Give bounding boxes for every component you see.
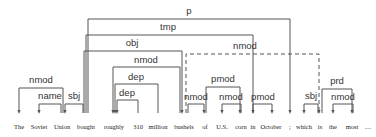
arc-label: pmod <box>251 91 275 102</box>
word-token: the <box>329 123 337 130</box>
arc-label: nmod <box>29 74 53 85</box>
arc-label: dep <box>128 71 144 82</box>
word-token: … <box>365 123 372 130</box>
word-token: of <box>202 123 208 130</box>
arc-line <box>39 104 61 113</box>
word-token: most <box>346 123 359 130</box>
arc-line <box>117 100 138 113</box>
arc-label: nmod <box>219 91 243 102</box>
dependency-arc-nmod <box>331 104 353 114</box>
arc-label: nmod <box>233 40 257 51</box>
dependency-arc-dep <box>115 100 138 114</box>
word-token: The <box>14 123 24 130</box>
arc-label: nmod <box>134 54 158 65</box>
word-token: bushels <box>174 123 194 130</box>
dependency-arc-nmod <box>188 104 206 114</box>
word-token: which <box>296 123 313 130</box>
arrowhead-icon <box>115 110 118 114</box>
arc-line <box>222 104 241 113</box>
arrowhead-icon <box>202 110 205 114</box>
word-token: U.S. <box>216 123 228 130</box>
arrowhead-icon <box>37 110 40 114</box>
arrowhead-icon <box>17 110 20 114</box>
word-token: is <box>318 123 323 130</box>
word-token: bought <box>77 123 95 130</box>
arc-line <box>84 51 182 113</box>
dependency-arc-name <box>37 104 61 114</box>
arc-label: prd <box>330 75 344 86</box>
arc-label: obj <box>126 37 139 48</box>
arrowhead-icon <box>288 110 291 114</box>
dependency-arc-sbj <box>63 104 83 114</box>
dependency-arc-nmod <box>220 104 241 114</box>
dependency-parse-diagram: ptmpobjnmodnmoddepdeppmodnmodnmodpmodnmo… <box>0 0 376 137</box>
dependency-arc-pmod <box>253 104 274 114</box>
word-token: Soviet <box>31 123 48 130</box>
arc-line <box>65 104 83 113</box>
arc-line <box>188 104 204 113</box>
word-token: Union <box>54 123 71 130</box>
word-token: in <box>250 123 256 130</box>
dependency-arc-sbj <box>302 104 318 114</box>
arc-label: sbj <box>68 90 80 101</box>
arc-label: tmp <box>160 21 176 32</box>
word-token: roughly <box>104 123 125 130</box>
arc-line <box>304 104 318 113</box>
word-token: 310 <box>133 123 143 130</box>
arc-label: pmod <box>211 73 235 84</box>
arc-line <box>333 104 353 113</box>
word-token: corn <box>235 123 247 130</box>
word-token: million <box>149 123 169 130</box>
arc-label: dep <box>119 87 135 98</box>
arc-label: nmod <box>184 91 208 102</box>
arrowhead-icon <box>270 110 273 114</box>
arrowhead-icon <box>63 110 66 114</box>
arc-label: name <box>38 90 62 101</box>
arc-label: nmod <box>331 91 355 102</box>
arc-label: sbj <box>305 90 317 101</box>
arrowhead-icon <box>302 110 305 114</box>
arrowhead-icon <box>220 110 223 114</box>
words-layer: TheSovietUnionboughtroughly310millionbus… <box>14 123 371 130</box>
word-token: ; <box>289 123 291 130</box>
arc-label: p <box>186 5 191 16</box>
arc-line <box>253 104 272 113</box>
arrowhead-icon <box>180 110 183 114</box>
word-token: October <box>261 123 283 130</box>
arrowhead-icon <box>331 110 334 114</box>
